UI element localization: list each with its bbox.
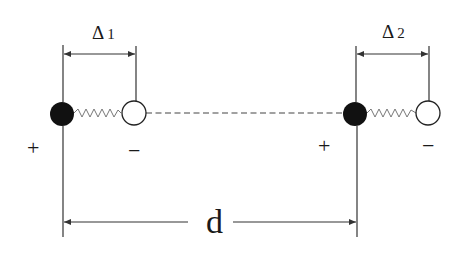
delta2-dimension	[356, 46, 429, 102]
delta1-label: Δ1	[92, 23, 115, 42]
dipole-1	[50, 101, 146, 126]
distance-label: d	[206, 205, 223, 239]
delta2-label: Δ2	[382, 22, 405, 41]
positive-sign-2: +	[318, 135, 330, 157]
negative-sign-2: −	[422, 135, 434, 157]
delta1-symbol: Δ	[92, 22, 104, 43]
delta2-index: 2	[397, 25, 405, 41]
delta2-symbol: Δ	[382, 21, 394, 42]
positive-charge-2	[343, 102, 367, 126]
negative-sign-1: −	[128, 140, 140, 162]
positive-charge-1	[50, 102, 74, 126]
spring-1	[74, 109, 121, 117]
positive-sign-1: +	[27, 137, 39, 159]
dipole-2	[343, 101, 440, 126]
spring-2	[367, 109, 416, 117]
delta1-index: 1	[107, 26, 115, 42]
delta1-dimension	[63, 45, 136, 102]
negative-charge-2	[416, 101, 440, 125]
negative-charge-1	[122, 101, 146, 125]
